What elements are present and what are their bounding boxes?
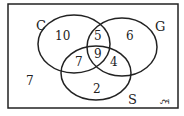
region-c-and-g: 5 (94, 29, 102, 43)
region-g-and-s: 4 (110, 55, 118, 69)
set-c-label: C (36, 18, 46, 33)
set-c-circle (38, 15, 110, 73)
region-only-g: 6 (126, 29, 134, 43)
universal-set-symbol: ξ (160, 99, 171, 105)
region-only-s: 2 (93, 82, 101, 96)
set-s-label: S (128, 92, 137, 107)
region-only-c: 10 (55, 29, 70, 43)
venn-diagram: C G S ξ 10 6 2 5 7 4 9 7 (0, 0, 184, 116)
set-g-label: G (155, 19, 165, 34)
region-outside: 7 (26, 74, 34, 88)
region-c-and-s: 7 (75, 55, 83, 69)
region-c-g-s: 9 (94, 47, 102, 61)
